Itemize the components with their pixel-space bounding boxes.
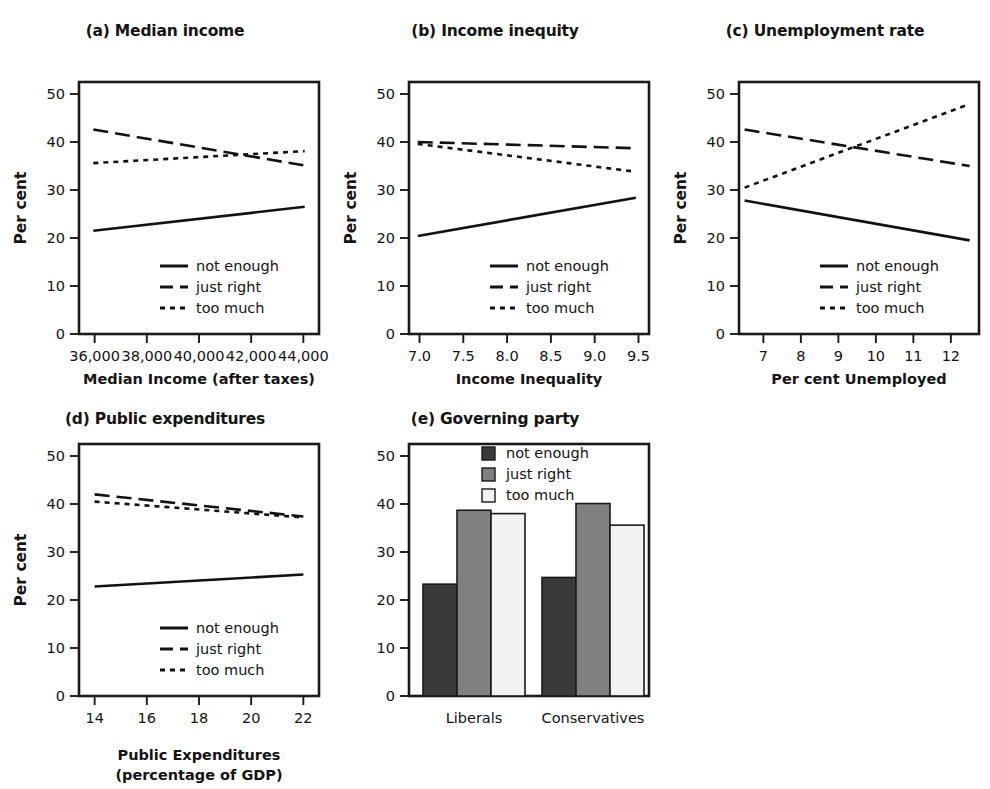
y-tick-label: 30	[707, 182, 725, 198]
panel-c-y-axis: 01020304050	[707, 86, 739, 342]
panel-a-y-axis: 01020304050	[47, 86, 79, 342]
panel-a-legend: not enoughjust righttoo much	[160, 258, 279, 316]
x-tick-label: 44,000	[278, 348, 329, 364]
series-line-too-much	[745, 104, 970, 188]
x-tick-label: 8	[796, 348, 805, 364]
panel-c-series	[745, 104, 970, 240]
y-tick-label: 0	[56, 326, 65, 342]
panel-e-legend: not enoughjust righttoo much	[482, 445, 589, 503]
panel-a-median-income: (a) Median income 01020304050 36,00038,0…	[0, 22, 330, 392]
bar-liberals-too-much	[491, 514, 525, 696]
legend-label: not enough	[196, 258, 279, 274]
x-tick-label: 12	[942, 348, 960, 364]
panel-b-axes	[409, 82, 649, 334]
x-tick-label: 9.0	[583, 348, 606, 364]
y-tick-label: 10	[47, 278, 65, 294]
panel-d-plot: 01020304050 1416182022 not enoughjust ri…	[0, 410, 330, 789]
x-tick-label: 18	[190, 710, 208, 726]
series-line-just-right	[95, 494, 304, 516]
y-tick-label: 50	[47, 448, 65, 464]
bar-liberals-just-right	[457, 510, 491, 696]
y-tick-label: 20	[47, 592, 65, 608]
panel-b-y-axis-label: Per cent	[342, 171, 360, 245]
panel-a-x-axis: 36,00038,00040,00042,00044,000	[69, 334, 328, 364]
panel-e-governing-party: (e) Governing party 01020304050 Liberals…	[330, 410, 690, 789]
y-tick-label: 10	[707, 278, 725, 294]
y-tick-label: 40	[47, 496, 65, 512]
x-tick-label: 14	[85, 710, 103, 726]
y-tick-label: 50	[47, 86, 65, 102]
y-tick-label: 10	[47, 640, 65, 656]
y-tick-label: 20	[377, 230, 395, 246]
panel-d-legend: not enoughjust righttoo much	[160, 620, 279, 678]
y-tick-label: 40	[377, 134, 395, 150]
panel-b-series	[418, 142, 636, 236]
panel-c-x-axis-label: Per cent Unemployed	[771, 371, 946, 387]
panel-a-plot: 01020304050 36,00038,00040,00042,00044,0…	[0, 22, 330, 392]
panel-c-plot: 01020304050 789101112 not enoughjust rig…	[660, 22, 990, 392]
panel-a-series	[93, 130, 304, 231]
y-tick-label: 0	[56, 688, 65, 704]
y-tick-label: 30	[377, 544, 395, 560]
bar-conservatives-just-right	[576, 504, 610, 696]
y-tick-label: 30	[377, 182, 395, 198]
panel-e-category-labels: LiberalsConservatives	[446, 710, 645, 726]
panel-c-unemployment-rate: (c) Unemployment rate 01020304050 789101…	[660, 22, 990, 392]
x-tick-label: 10	[867, 348, 885, 364]
series-line-not-enough	[93, 207, 304, 231]
panel-a-y-axis-label: Per cent	[12, 171, 30, 245]
legend-label: too much	[526, 300, 595, 316]
panel-d-x-axis: 1416182022	[85, 696, 312, 726]
legend-label: not enough	[526, 258, 609, 274]
panel-e-y-axis: 01020304050	[377, 448, 409, 704]
x-tick-label: 16	[138, 710, 156, 726]
y-tick-label: 0	[716, 326, 725, 342]
panel-d-y-axis-label: Per cent	[12, 533, 30, 607]
legend-label: just right	[505, 466, 571, 482]
bar-conservatives-not-enough	[542, 577, 576, 696]
panel-b-plot: 01020304050 7.07.58.08.59.09.5 not enoug…	[330, 22, 660, 392]
x-tick-label: 7.5	[452, 348, 475, 364]
x-category-label: Liberals	[446, 710, 503, 726]
panel-a-x-axis-label: Median Income (after taxes)	[83, 371, 315, 387]
legend-label: too much	[196, 662, 265, 678]
y-tick-label: 40	[377, 496, 395, 512]
legend-swatch-just-right	[482, 468, 495, 481]
panel-d-public-expenditures: (d) Public expenditures 01020304050 1416…	[0, 410, 330, 789]
x-category-label: Conservatives	[542, 710, 645, 726]
series-line-not-enough	[418, 198, 636, 236]
legend-label: just right	[195, 279, 261, 295]
y-tick-label: 0	[386, 326, 395, 342]
x-tick-label: 22	[294, 710, 312, 726]
bar-liberals-not-enough	[423, 584, 457, 696]
panel-b-legend: not enoughjust righttoo much	[490, 258, 609, 316]
panel-d-axes	[79, 444, 319, 696]
legend-label: just right	[195, 641, 261, 657]
legend-swatch-not-enough	[482, 447, 495, 460]
legend-label: just right	[525, 279, 591, 295]
figure-panel-grid: (a) Median income 01020304050 36,00038,0…	[0, 0, 990, 789]
panel-d-y-axis: 01020304050	[47, 448, 79, 704]
series-line-not-enough	[95, 575, 304, 587]
y-tick-label: 30	[47, 544, 65, 560]
legend-label: not enough	[856, 258, 939, 274]
x-tick-label: 11	[904, 348, 922, 364]
x-tick-label: 8.5	[539, 348, 562, 364]
panel-e-bars	[423, 504, 644, 696]
panel-c-axes	[739, 82, 979, 334]
panel-c-x-axis: 789101112	[759, 334, 960, 364]
x-tick-label: 9	[834, 348, 843, 364]
panel-e-plot: 01020304050 LiberalsConservatives not en…	[330, 410, 690, 789]
legend-label: too much	[506, 487, 575, 503]
y-tick-label: 10	[377, 640, 395, 656]
y-tick-label: 40	[707, 134, 725, 150]
series-line-not-enough	[745, 201, 970, 241]
x-tick-label: 42,000	[226, 348, 277, 364]
y-tick-label: 10	[377, 278, 395, 294]
legend-label: not enough	[506, 445, 589, 461]
panel-b-income-inequity: (b) Income inequity 01020304050 7.07.58.…	[330, 22, 660, 392]
y-tick-label: 0	[386, 688, 395, 704]
panel-d-x-axis-label-line1: Public Expenditures	[118, 747, 281, 763]
y-tick-label: 20	[707, 230, 725, 246]
panel-d-x-axis-label-line2: (percentage of GDP)	[115, 767, 282, 783]
